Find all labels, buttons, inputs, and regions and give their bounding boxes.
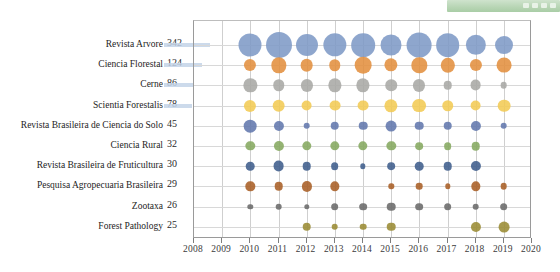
- category-label: Ciencia Rural: [111, 140, 164, 150]
- data-bubble: [302, 162, 311, 171]
- data-bubble: [471, 161, 481, 171]
- data-bubble: [329, 100, 340, 111]
- data-bubble: [385, 99, 398, 112]
- data-bubble: [413, 79, 425, 91]
- data-bubble: [443, 81, 452, 90]
- data-bubble: [273, 161, 284, 172]
- data-bubble: [244, 79, 257, 92]
- category-label: Scientia Forestalis: [93, 100, 163, 110]
- total-value: 45: [167, 119, 177, 129]
- data-bubble: [356, 79, 369, 92]
- x-axis-tick: [334, 238, 335, 243]
- data-bubble: [388, 184, 393, 189]
- data-bubble: [443, 162, 452, 171]
- data-bubble: [471, 121, 481, 131]
- data-bubble: [274, 182, 283, 191]
- data-bubble: [359, 122, 368, 131]
- data-bubble: [271, 58, 286, 73]
- data-bubble: [329, 59, 341, 71]
- category-label: Forest Pathology: [98, 221, 163, 231]
- category-label: Cerne: [140, 79, 163, 89]
- data-bubble: [302, 223, 311, 232]
- category-label: Ciencia Florestal: [98, 59, 163, 69]
- data-bubble: [387, 202, 396, 211]
- data-bubble: [471, 222, 481, 232]
- data-bubble: [302, 181, 312, 191]
- data-bubble: [444, 142, 452, 150]
- total-value-bar: [164, 83, 194, 87]
- total-value: 30: [167, 159, 177, 169]
- data-bubble: [296, 34, 318, 56]
- data-bubble: [244, 100, 256, 112]
- data-bubble: [471, 142, 480, 151]
- data-bubble: [239, 34, 262, 57]
- data-bubble: [440, 58, 454, 72]
- data-bubble: [358, 100, 369, 111]
- toolbar-fragment: [447, 0, 560, 12]
- x-axis-tick-label: 2020: [511, 244, 551, 254]
- data-bubble: [355, 57, 372, 74]
- data-bubble: [244, 119, 257, 132]
- bubble-chart-figure: Revista ArvoreCiencia FlorestalCerneScie…: [0, 0, 560, 272]
- x-axis-tick: [475, 238, 476, 243]
- x-axis-tick: [249, 238, 250, 243]
- data-bubble: [331, 203, 339, 211]
- data-bubble: [415, 162, 424, 171]
- x-axis-tick: [362, 238, 363, 243]
- data-bubble: [351, 33, 375, 57]
- data-bubble: [407, 33, 432, 58]
- data-bubble: [500, 203, 508, 211]
- data-bubble: [470, 80, 481, 91]
- data-bubble: [443, 122, 452, 131]
- data-bubble: [412, 99, 426, 113]
- data-bubble: [301, 79, 313, 91]
- data-bubble: [358, 141, 367, 150]
- category-label: Revista Brasileira de Ciencia do Solo: [21, 120, 163, 130]
- total-value: 26: [167, 200, 177, 210]
- data-bubble: [272, 99, 285, 112]
- category-label-column: Revista ArvoreCiencia FlorestalCerneScie…: [0, 0, 163, 272]
- data-bubble: [303, 122, 310, 129]
- data-bubble: [416, 142, 424, 150]
- data-bubble: [360, 163, 365, 168]
- x-axis-tick: [221, 238, 222, 243]
- data-bubble: [300, 59, 313, 72]
- data-bubble: [330, 182, 339, 191]
- data-bubble: [246, 162, 255, 171]
- data-bubble: [387, 162, 395, 170]
- category-label: Pesquisa Agropecuaria Brasileira: [37, 180, 163, 190]
- data-bubble: [501, 82, 508, 89]
- data-bubble: [331, 162, 339, 170]
- data-bubble: [332, 223, 339, 230]
- data-bubble: [330, 141, 339, 150]
- data-bubble: [244, 59, 256, 71]
- total-value-column: 3421248678453230292625: [167, 0, 193, 272]
- data-bubble: [275, 203, 282, 210]
- total-value: 29: [167, 179, 177, 189]
- total-value: 25: [167, 220, 177, 230]
- data-bubble: [266, 32, 292, 58]
- data-bubble: [246, 182, 255, 191]
- gridline-vertical: [222, 21, 223, 237]
- data-bubble: [323, 33, 346, 56]
- data-bubble: [386, 120, 397, 131]
- data-bubble: [328, 79, 341, 92]
- toolbar-dots-icon: [523, 3, 556, 8]
- data-bubble: [412, 58, 427, 73]
- data-bubble: [498, 221, 509, 232]
- data-bubble: [445, 184, 450, 189]
- x-axis-tick: [418, 238, 419, 243]
- data-bubble: [381, 35, 402, 56]
- category-label: Zootaxa: [132, 201, 163, 211]
- data-bubble: [501, 122, 508, 129]
- data-bubble: [444, 203, 452, 211]
- x-axis-tick: [193, 238, 194, 243]
- data-bubble: [416, 183, 423, 190]
- data-bubble: [436, 33, 460, 57]
- data-bubble: [246, 141, 255, 150]
- data-bubble: [471, 182, 480, 191]
- total-value-bar: [164, 104, 192, 108]
- x-axis-tick: [531, 238, 532, 243]
- data-bubble: [304, 204, 309, 209]
- data-bubble: [359, 203, 367, 211]
